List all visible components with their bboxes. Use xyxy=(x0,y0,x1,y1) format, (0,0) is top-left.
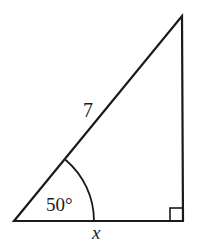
triangle-diagram: 7 50° x xyxy=(0,0,204,246)
triangle xyxy=(14,16,183,221)
base-label: x xyxy=(91,222,101,243)
hypotenuse-label: 7 xyxy=(83,99,93,121)
angle-label: 50° xyxy=(46,194,73,215)
right-angle-marker xyxy=(170,208,183,221)
